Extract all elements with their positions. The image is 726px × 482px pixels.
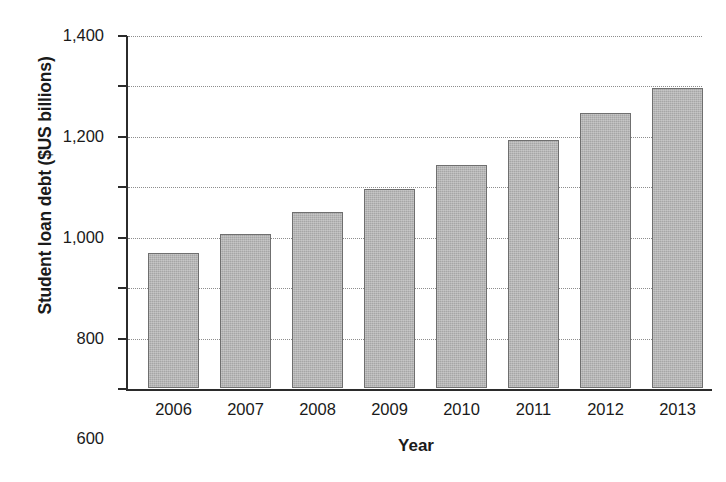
x-tick-label-2011: 2011 xyxy=(516,400,551,419)
y-tick-200: 200 xyxy=(118,338,127,340)
x-tick-label-2007: 2007 xyxy=(227,400,264,419)
gridline-1200 xyxy=(128,86,702,87)
y-tick-label-800: 800 xyxy=(76,328,104,347)
y-axis-title: Student loan debt ($US billions) xyxy=(35,0,56,386)
y-tick-1200: 1,200 xyxy=(118,85,127,87)
y-tick-label-1200: 1,200 xyxy=(63,126,104,145)
bar-2013 xyxy=(652,88,703,388)
bar-2012 xyxy=(580,113,631,388)
bar-2010 xyxy=(436,165,487,388)
y-tick-600: 600 xyxy=(118,237,127,239)
x-tick-label-2013: 2013 xyxy=(659,400,696,419)
y-tick-1400: 1,400 xyxy=(118,35,127,37)
y-tick-800: 800 xyxy=(118,186,127,188)
y-tick-400: 400 xyxy=(118,287,127,289)
bar-chart-figure: Student loan debt ($US billions) 0200400… xyxy=(0,0,726,482)
y-tick-label-1400: 1,400 xyxy=(63,26,104,45)
x-axis-line xyxy=(126,389,712,391)
y-tick-label-600: 600 xyxy=(76,429,104,448)
x-tick-label-2009: 2009 xyxy=(371,400,408,419)
y-tick-1000: 1,000 xyxy=(118,136,127,138)
x-tick-label-2008: 2008 xyxy=(299,400,336,419)
x-tick-label-2012: 2012 xyxy=(587,400,624,419)
bar-2006 xyxy=(148,253,199,388)
y-tick-label-1000: 1,000 xyxy=(63,227,104,246)
x-tick-label-2006: 2006 xyxy=(155,400,192,419)
x-axis-title: Year xyxy=(126,436,706,456)
plot-area: 02004006008001,0001,2001,400 20062007200… xyxy=(126,36,702,390)
bar-2007 xyxy=(220,234,271,388)
bar-2009 xyxy=(364,189,415,388)
bar-2011 xyxy=(508,140,559,388)
bar-2008 xyxy=(292,212,343,389)
gridline-1400 xyxy=(128,36,702,37)
y-tick-0: 0 xyxy=(118,388,127,390)
x-tick-label-2010: 2010 xyxy=(443,400,480,419)
